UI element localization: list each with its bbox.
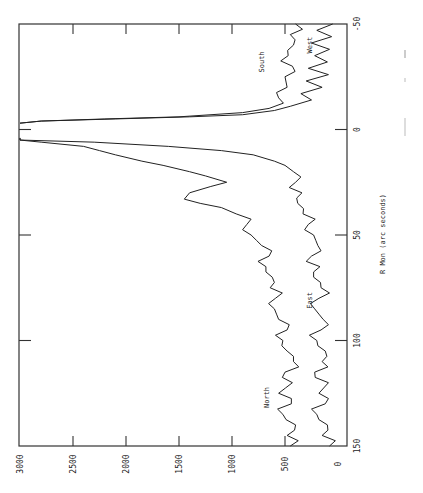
x-tick-label: 150 [353, 439, 362, 454]
x-tick-label: 50 [353, 230, 362, 240]
curve-label-west: West [306, 37, 314, 54]
y-tick-label: 1000 [228, 454, 237, 473]
curve-north [20, 138, 299, 446]
y-tick-label: 0 [334, 461, 343, 466]
plot-frame [19, 24, 347, 446]
x-tick-label: 0 [353, 127, 362, 132]
curve-label-south: South [258, 51, 266, 72]
y-tick-label: 1500 [175, 454, 184, 473]
axis-ticks [19, 24, 347, 446]
curve-west [20, 24, 333, 123]
y-tick-label: 2500 [69, 454, 78, 473]
axis-tick-labels: 050010001500200025003000150100500-50 [16, 17, 362, 474]
x-tick-label: -50 [353, 17, 362, 32]
x-axis-label: R Mon (arc seconds) [379, 194, 387, 274]
y-tick-label: 2000 [122, 454, 131, 473]
y-tick-label: 3000 [16, 454, 25, 473]
curve-label-east: East [306, 292, 314, 309]
x-tick-label: 100 [353, 333, 362, 348]
y-tick-label: 500 [281, 457, 290, 472]
curve-south [20, 24, 302, 123]
data-curves [20, 24, 335, 446]
rotated-line-chart: 050010001500200025003000150100500-50 Nor… [0, 0, 423, 493]
faint-caption [404, 50, 406, 136]
curve-label-north: North [263, 387, 271, 408]
curve-east [20, 138, 335, 446]
